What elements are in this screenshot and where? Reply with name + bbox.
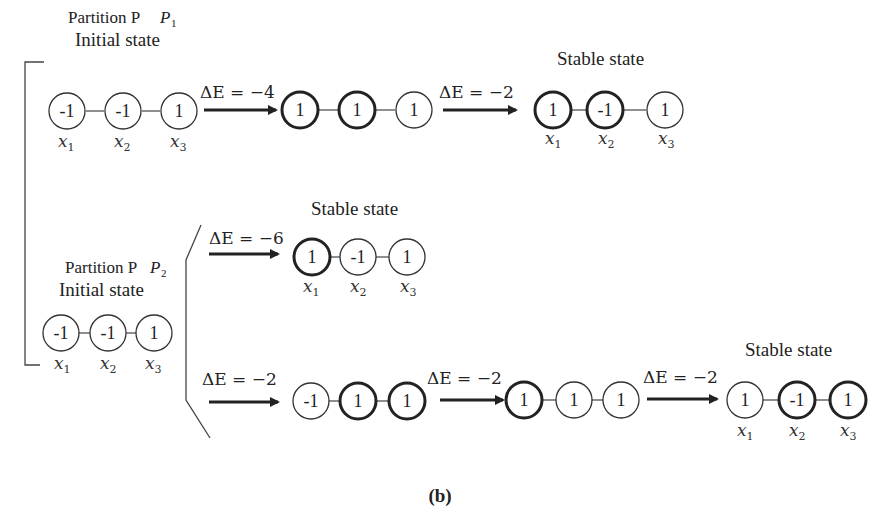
- node-value: 1: [617, 390, 626, 410]
- delta-e-label: ΔE = −2: [439, 82, 514, 102]
- partition-p1: Partition P P 1 Initial state -1 -1 1 x1…: [49, 8, 683, 154]
- p2-branch-a: ΔE = −6 Stable state 1 -1 1 x1 x2 x3: [209, 198, 425, 299]
- transition-arrow: ΔE = −2: [643, 367, 718, 399]
- transition-arrow: ΔE = −4: [200, 82, 276, 110]
- var-x3: x3: [840, 420, 857, 443]
- node-value: -1: [116, 101, 131, 121]
- figure-caption: (b): [428, 485, 451, 507]
- p2-initial-label: Initial state: [59, 279, 144, 300]
- p1-title: Partition P: [68, 8, 140, 27]
- node-value: -1: [351, 247, 366, 267]
- node-value: -1: [101, 323, 116, 343]
- var-x3: x3: [400, 276, 417, 299]
- var-x2: x2: [598, 128, 615, 151]
- node-value: 1: [403, 247, 412, 267]
- node-value: 1: [549, 100, 558, 120]
- var-x2: x2: [789, 420, 806, 443]
- node-value: 1: [354, 391, 363, 411]
- p1-initial-state: -1 -1 1 x1 x2 x3: [49, 93, 197, 154]
- node-value: 1: [410, 100, 419, 120]
- delta-e-label: ΔE = −2: [427, 368, 502, 388]
- p2-title: Partition P: [65, 258, 137, 277]
- stable-state-label: Stable state: [557, 48, 644, 69]
- var-x3: x3: [658, 128, 675, 151]
- p2-initial-state: -1 -1 1 x1 x2 x3: [43, 315, 172, 376]
- node-value: 1: [175, 101, 184, 121]
- transition-arrow: ΔE = −2: [202, 369, 278, 402]
- node-value: -1: [54, 323, 69, 343]
- transition-arrow: ΔE = −2: [439, 82, 516, 110]
- delta-e-label: ΔE = −4: [200, 82, 275, 102]
- p1-intermediate-state: 1 1 1: [282, 92, 432, 128]
- node-value: -1: [598, 100, 613, 120]
- node-value: -1: [790, 390, 805, 410]
- stable-state-label: Stable state: [745, 339, 832, 360]
- p2-branch-b: ΔE = −2 -1 1 1 ΔE = −2 1 1 1 Δ: [202, 339, 866, 443]
- var-x1: x1: [54, 353, 71, 376]
- diagram-figure: Partition P P 1 Initial state -1 -1 1 x1…: [0, 0, 887, 526]
- p2-subscript: 2: [161, 267, 167, 279]
- partition-p2: Partition P P 2 Initial state -1 -1 1 x1…: [43, 198, 866, 443]
- p1-stable-state: Stable state 1 -1 1 x1 x2 x3: [535, 48, 683, 151]
- p1-subscript: 1: [171, 17, 177, 29]
- var-x1: x1: [58, 131, 75, 154]
- node-value: -1: [304, 391, 319, 411]
- var-x1: x1: [737, 420, 754, 443]
- node-value: 1: [520, 390, 529, 410]
- node-value: -1: [60, 101, 75, 121]
- var-x3: x3: [145, 353, 162, 376]
- stable-state-label: Stable state: [311, 198, 398, 219]
- node-value: 1: [661, 100, 670, 120]
- delta-e-label: ΔE = −6: [209, 228, 284, 248]
- node-value: 1: [741, 390, 750, 410]
- node-value: 1: [308, 247, 317, 267]
- var-x2: x2: [100, 353, 117, 376]
- node-value: 1: [570, 390, 579, 410]
- var-x2: x2: [350, 276, 367, 299]
- node-value: 1: [353, 100, 362, 120]
- transition-arrow: ΔE = −6: [209, 228, 284, 254]
- transition-arrow: ΔE = −2: [427, 368, 503, 400]
- p2-symbol: P: [149, 258, 160, 277]
- var-x1: x1: [303, 276, 320, 299]
- delta-e-label: ΔE = −2: [202, 369, 277, 389]
- delta-e-label: ΔE = −2: [643, 367, 718, 387]
- node-value: 1: [150, 323, 159, 343]
- node-value: 1: [403, 391, 412, 411]
- var-x2: x2: [114, 131, 131, 154]
- p1-symbol: P: [159, 8, 170, 27]
- node-value: 1: [844, 390, 853, 410]
- branch-bracket: [186, 225, 210, 438]
- var-x3: x3: [170, 131, 187, 154]
- p1-initial-label: Initial state: [75, 29, 160, 50]
- var-x1: x1: [545, 128, 562, 151]
- node-value: 1: [296, 100, 305, 120]
- partition-bracket: [25, 62, 44, 365]
